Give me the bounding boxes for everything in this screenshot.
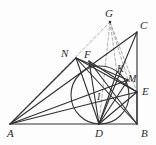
point-label-i: I (97, 92, 100, 102)
point-marker-g (109, 21, 112, 24)
point-label-n: N (61, 48, 68, 59)
point-label-e: E (142, 86, 149, 97)
point-label-m: M (128, 74, 136, 84)
point-label-d: D (95, 128, 103, 139)
point-label-a: A (7, 128, 14, 139)
point-label-c: C (140, 20, 147, 31)
point-label-b: B (141, 128, 148, 139)
segment-am (10, 80, 128, 124)
point-label-f: F (84, 49, 91, 60)
geometry-figure: ABCDEFGIKMN (0, 0, 156, 145)
point-label-g: G (105, 8, 113, 19)
segment-an (10, 58, 76, 124)
point-label-k: K (117, 64, 124, 74)
